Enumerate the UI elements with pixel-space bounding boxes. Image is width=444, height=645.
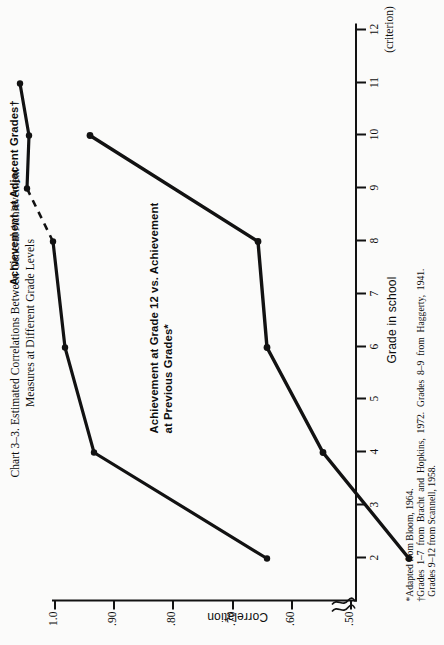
footnote-1: *Adapted from Bloom, 1964.: [404, 41, 415, 601]
series-lines: [0, 0, 444, 645]
footnotes: *Adapted from Bloom, 1964. †Grades 1–7 f…: [404, 41, 438, 601]
footnote-3: Grades 9–12 from Scannell, 1958.: [426, 41, 437, 601]
series-label-grade12-line2: at Previous Grades*: [162, 202, 176, 433]
plot-area: .50 .60 .70 .80 .90 1.0 Correlation 2 3 …: [0, 0, 444, 645]
series-label-grade12-vs-previous: Achievement at Grade 12 vs. Achievement …: [148, 202, 175, 433]
series-label-adjacent-grades: Achievement at Adjacent Grades†: [8, 100, 22, 285]
footnote-2: †Grades 1–7 from Bracht and Hopkins, 197…: [415, 41, 426, 601]
series-adjacent-grades: [17, 80, 270, 561]
rotated-figure: Chart 3–3. Estimated Correlations Betwee…: [0, 0, 444, 645]
series-grade12-vs-previous: [87, 132, 413, 562]
series-label-grade12-line1: Achievement at Grade 12 vs. Achievement: [148, 202, 162, 433]
